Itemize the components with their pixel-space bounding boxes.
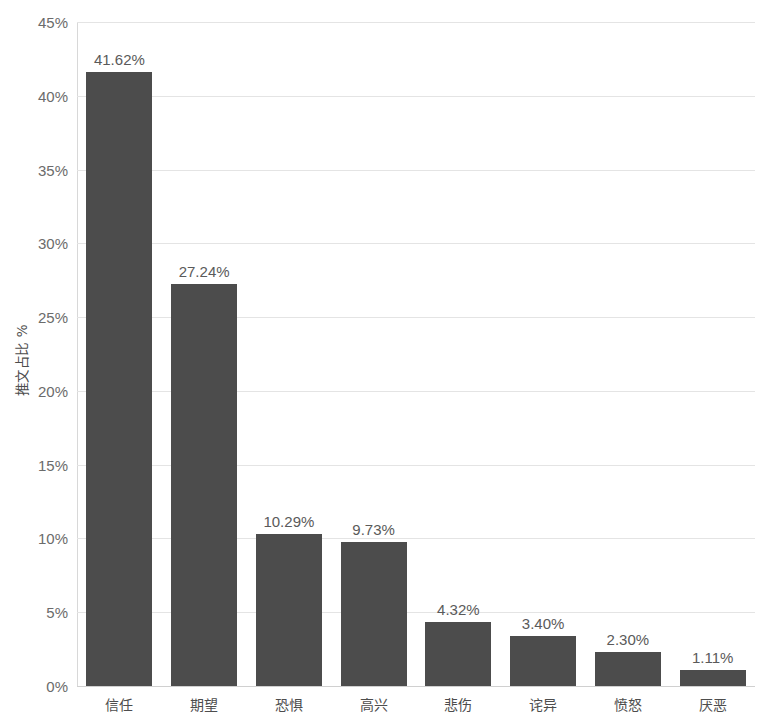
y-tick-label: 0% (11, 678, 77, 695)
bar[interactable] (171, 284, 237, 686)
bar-value-label: 27.24% (179, 263, 230, 280)
bar[interactable] (256, 534, 322, 686)
bar-value-label: 41.62% (94, 51, 145, 68)
y-tick-label: 5% (11, 604, 77, 621)
bar-value-label: 3.40% (522, 615, 565, 632)
bar-group[interactable]: 10.29% (247, 22, 332, 686)
y-tick-label: 15% (11, 456, 77, 473)
bar-group[interactable]: 3.40% (501, 22, 586, 686)
bar-group[interactable]: 9.73% (331, 22, 416, 686)
y-tick-label: 20% (11, 382, 77, 399)
bar-group[interactable]: 4.32% (416, 22, 501, 686)
bar-group[interactable]: 1.11% (670, 22, 755, 686)
x-tick-label: 厌恶 (699, 694, 727, 714)
bar-chart: 推文占比 % 0%5%10%15%20%25%30%35%40%45% 41.6… (0, 0, 757, 720)
y-tick-label: 40% (11, 87, 77, 104)
gridline (77, 686, 755, 687)
bar[interactable] (595, 652, 661, 686)
bar[interactable] (341, 542, 407, 686)
y-tick-label: 45% (11, 14, 77, 31)
bar-group[interactable]: 2.30% (586, 22, 671, 686)
x-axis-tick-labels: 信任期望恐惧高兴悲伤诧异愤怒厌恶 (77, 694, 755, 720)
bar-value-label: 10.29% (263, 513, 314, 530)
x-tick-label: 高兴 (360, 694, 388, 714)
bar-group[interactable]: 41.62% (77, 22, 162, 686)
x-tick-label: 悲伤 (444, 694, 472, 714)
y-tick-label: 30% (11, 235, 77, 252)
y-axis-tick-labels: 0%5%10%15%20%25%30%35%40%45% (0, 0, 77, 720)
x-tick-label: 期望 (190, 694, 218, 714)
bar[interactable] (86, 72, 152, 686)
y-tick-label: 35% (11, 161, 77, 178)
bar-value-label: 4.32% (437, 601, 480, 618)
x-tick-label: 信任 (105, 694, 133, 714)
bar[interactable] (425, 622, 491, 686)
y-tick-label: 25% (11, 309, 77, 326)
bar-value-label: 9.73% (352, 521, 395, 538)
x-tick-label: 诧异 (529, 694, 557, 714)
bar[interactable] (510, 636, 576, 686)
bar-value-label: 2.30% (607, 631, 650, 648)
bar-value-label: 1.11% (692, 649, 733, 666)
bar[interactable] (680, 670, 746, 686)
x-tick-label: 恐惧 (275, 694, 303, 714)
plot-area: 41.62%27.24%10.29%9.73%4.32%3.40%2.30%1.… (77, 22, 755, 686)
bar-group[interactable]: 27.24% (162, 22, 247, 686)
x-tick-label: 愤怒 (614, 694, 642, 714)
y-tick-label: 10% (11, 530, 77, 547)
